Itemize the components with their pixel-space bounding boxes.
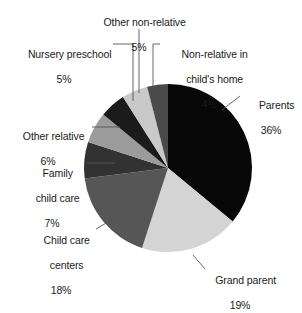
- pie-label-grand-parent-value: 19%: [199, 299, 281, 311]
- pie-label-other-non-relative-text: Other non-relative: [104, 16, 186, 28]
- pie-label-nursery-preschool: Nursery preschool 5%: [8, 36, 120, 110]
- pie-label-child-care-centers-text-line2: centers: [50, 259, 84, 271]
- pie-label-parents-text: Parents: [259, 99, 295, 111]
- pie-label-child-care-centers-text-line1: Child care: [44, 234, 90, 246]
- pie-label-family-child-care-text-line1: Family: [42, 167, 72, 179]
- pie-label-non-relative-home-value: 4%: [163, 98, 255, 110]
- pie-label-nursery-preschool-text: Nursery preschool: [28, 48, 112, 60]
- pie-label-non-relative-home-text-line1: Non-relative in: [182, 48, 248, 60]
- pie-label-non-relative-home-text-line2: child's home: [186, 73, 243, 85]
- pie-label-nursery-preschool-value: 5%: [8, 73, 120, 85]
- pie-label-other-relative-text: Other relative: [23, 130, 85, 142]
- pie-label-grand-parent: Grand parent 19%: [199, 262, 281, 313]
- pie-label-child-care-centers: Child care centers 18%: [22, 222, 100, 313]
- pie-label-grand-parent-text: Grand parent: [215, 274, 276, 286]
- pie-label-child-care-centers-value: 18%: [22, 284, 100, 296]
- pie-label-non-relative-in-childs-home: Non-relative in child's home 4%: [163, 36, 255, 135]
- pie-label-parents-value: 36%: [243, 124, 299, 136]
- pie-label-parents: Parents 36%: [243, 87, 299, 161]
- pie-label-family-child-care-text-line2: child care: [36, 192, 80, 204]
